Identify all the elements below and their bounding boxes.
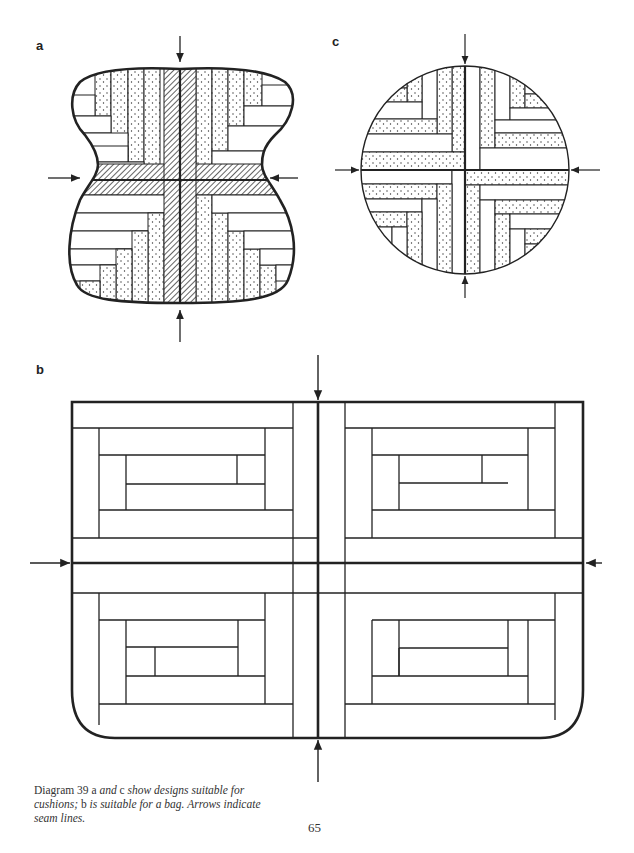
diagram-canvas [0, 0, 634, 853]
page-number: 65 [308, 820, 321, 836]
caption-ref-b: b [81, 798, 87, 810]
caption-ref-a: a [91, 784, 96, 796]
diagram-c [355, 60, 575, 280]
diagram-a [60, 60, 312, 310]
caption-ref-c: c [120, 784, 125, 796]
figure-caption: Diagram 39 a and c show designs suitable… [34, 783, 284, 825]
caption-text: and [99, 784, 116, 796]
caption-label: Diagram 39 [34, 784, 89, 796]
diagram-b [72, 402, 583, 738]
diagram-b-arrows [30, 355, 602, 782]
